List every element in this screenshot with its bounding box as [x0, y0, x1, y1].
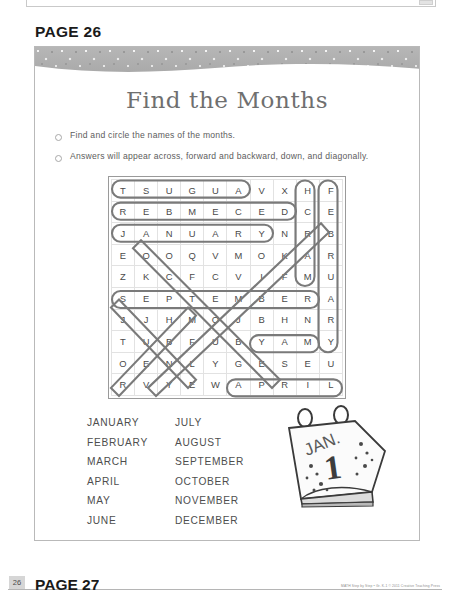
grid-cell[interactable]: E: [135, 287, 158, 309]
grid-cell[interactable]: R: [296, 223, 319, 245]
grid-cell[interactable]: F: [181, 266, 204, 288]
grid-cell[interactable]: E: [273, 287, 296, 309]
grid-cell[interactable]: E: [296, 352, 319, 374]
grid-cell[interactable]: P: [250, 374, 273, 396]
grid-cell[interactable]: M: [227, 244, 250, 266]
grid-cell[interactable]: O: [204, 309, 227, 331]
grid-cell[interactable]: H: [273, 309, 296, 331]
grid-cell[interactable]: E: [135, 201, 158, 223]
grid-cell[interactable]: U: [158, 180, 181, 202]
grid-cell[interactable]: U: [204, 331, 227, 353]
grid-cell[interactable]: B: [227, 331, 250, 353]
grid-cell[interactable]: A: [227, 374, 250, 396]
grid-cell[interactable]: Y: [319, 331, 342, 353]
grid-cell[interactable]: A: [204, 223, 227, 245]
grid-cell[interactable]: B: [250, 309, 273, 331]
grid-cell[interactable]: A: [273, 331, 296, 353]
grid-cell[interactable]: U: [135, 331, 158, 353]
grid-cell[interactable]: I: [296, 374, 319, 396]
grid-cell[interactable]: X: [273, 180, 296, 202]
grid-cell[interactable]: E: [250, 201, 273, 223]
grid-cell[interactable]: J: [112, 309, 135, 331]
grid-cell[interactable]: O: [158, 244, 181, 266]
grid-cell[interactable]: R: [319, 244, 342, 266]
grid-cell[interactable]: F: [273, 266, 296, 288]
grid-cell[interactable]: J: [112, 223, 135, 245]
grid-cell[interactable]: C: [296, 201, 319, 223]
grid-cell[interactable]: M: [227, 287, 250, 309]
grid-cell[interactable]: C: [227, 201, 250, 223]
grid-cell[interactable]: R: [227, 223, 250, 245]
grid-cell[interactable]: S: [273, 352, 296, 374]
grid-cell[interactable]: M: [181, 309, 204, 331]
grid-cell[interactable]: O: [135, 244, 158, 266]
grid-cell[interactable]: A: [227, 180, 250, 202]
grid-cell[interactable]: B: [319, 223, 342, 245]
grid-cell[interactable]: O: [112, 352, 135, 374]
grid-cell[interactable]: E: [319, 201, 342, 223]
grid-cell[interactable]: M: [296, 266, 319, 288]
word-search-grid[interactable]: TSUGUAVXHFREBMECEDCEJANUARYNRBEOOQVMOKAR…: [108, 176, 346, 399]
grid-cell[interactable]: D: [273, 201, 296, 223]
grid-cell[interactable]: R: [296, 287, 319, 309]
grid-cell[interactable]: N: [158, 352, 181, 374]
grid-cell[interactable]: R: [112, 201, 135, 223]
grid-cell[interactable]: E: [112, 244, 135, 266]
grid-cell[interactable]: G: [227, 352, 250, 374]
grid-cell[interactable]: B: [250, 287, 273, 309]
grid-cell[interactable]: E: [204, 201, 227, 223]
grid-cell[interactable]: F: [319, 180, 342, 202]
grid-cell[interactable]: E: [250, 352, 273, 374]
grid-cell[interactable]: V: [227, 266, 250, 288]
grid-cell[interactable]: S: [135, 180, 158, 202]
grid-cell[interactable]: P: [158, 287, 181, 309]
grid-cell[interactable]: L: [319, 374, 342, 396]
grid-cell[interactable]: T: [112, 180, 135, 202]
grid-cell[interactable]: A: [319, 287, 342, 309]
grid-cell[interactable]: N: [158, 223, 181, 245]
grid-cell[interactable]: H: [296, 180, 319, 202]
grid-cell[interactable]: B: [158, 331, 181, 353]
grid-cell[interactable]: U: [319, 266, 342, 288]
grid-cell[interactable]: A: [296, 244, 319, 266]
grid-cell[interactable]: Q: [181, 244, 204, 266]
grid-cell[interactable]: O: [250, 244, 273, 266]
grid-cell[interactable]: I: [250, 266, 273, 288]
grid-cell[interactable]: S: [112, 287, 135, 309]
grid-cell[interactable]: Y: [158, 374, 181, 396]
grid-cell[interactable]: R: [112, 374, 135, 396]
grid-cell[interactable]: J: [135, 309, 158, 331]
grid-cell[interactable]: Y: [250, 223, 273, 245]
grid-cell[interactable]: M: [181, 201, 204, 223]
grid-cell[interactable]: T: [112, 331, 135, 353]
grid-cell[interactable]: H: [158, 309, 181, 331]
grid-cell[interactable]: N: [273, 223, 296, 245]
grid-cell[interactable]: B: [158, 201, 181, 223]
grid-cell[interactable]: Y: [204, 352, 227, 374]
grid-cell[interactable]: J: [227, 309, 250, 331]
grid-cell[interactable]: W: [204, 374, 227, 396]
letter-grid[interactable]: TSUGUAVXHFREBMECEDCEJANUARYNRBEOOQVMOKAR…: [111, 179, 343, 396]
grid-cell[interactable]: U: [319, 352, 342, 374]
grid-cell[interactable]: C: [204, 266, 227, 288]
grid-cell[interactable]: V: [204, 244, 227, 266]
grid-cell[interactable]: E: [135, 352, 158, 374]
grid-cell[interactable]: U: [181, 223, 204, 245]
grid-cell[interactable]: G: [181, 180, 204, 202]
grid-cell[interactable]: K: [273, 244, 296, 266]
grid-cell[interactable]: T: [181, 287, 204, 309]
grid-cell[interactable]: A: [135, 223, 158, 245]
grid-cell[interactable]: R: [319, 309, 342, 331]
grid-cell[interactable]: V: [250, 180, 273, 202]
grid-cell[interactable]: K: [135, 266, 158, 288]
grid-cell[interactable]: M: [296, 331, 319, 353]
grid-cell[interactable]: Y: [250, 331, 273, 353]
grid-cell[interactable]: C: [158, 266, 181, 288]
grid-cell[interactable]: E: [181, 374, 204, 396]
grid-cell[interactable]: Z: [112, 266, 135, 288]
grid-cell[interactable]: F: [181, 331, 204, 353]
grid-cell[interactable]: R: [273, 374, 296, 396]
grid-cell[interactable]: E: [204, 287, 227, 309]
grid-cell[interactable]: L: [181, 352, 204, 374]
grid-cell[interactable]: N: [296, 309, 319, 331]
